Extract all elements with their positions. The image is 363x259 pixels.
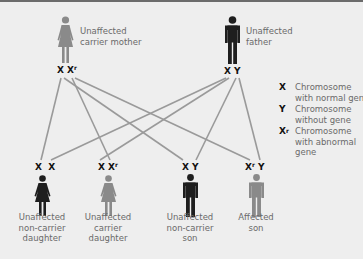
daughter2-chromosomes: X Xr [98,162,118,172]
father-figure [223,16,242,70]
son2-label: Affected son [226,212,286,233]
chromosome-y: Y [234,66,241,76]
line-father-y-to-son2 [239,78,260,160]
male-icon [223,16,242,66]
legend-key-y: Y [279,104,286,115]
chromosome-xr: Xr [108,162,118,172]
father-label: Unaffected father [246,26,293,47]
son1-chromosomes: X Y [182,162,199,172]
mother-label: Unaffected carrier mother [80,26,141,47]
female-icon [33,175,52,217]
line-mother-x-to-daughter1 [41,78,61,160]
mother-chromosomes: X Xr [57,65,77,75]
father-chromosomes: X Y [224,66,241,76]
daughter1-label: Unaffected non-carrier daughter [12,212,72,244]
legend-key-x: X [279,82,286,93]
son2-chromosomes: Xr Y [245,162,265,172]
daughter2-label: Unaffected carrier daughter [78,212,138,244]
daughter1-chromosomes: X X [35,162,55,172]
son1-label: Unaffected non-carrier son [160,212,220,244]
chromosome-xr: Xr [245,162,255,172]
mother-figure [56,16,75,68]
chromosome-xr: Xr [67,65,77,75]
chromosome-x: X [224,66,231,76]
chromosome-x: X [57,65,64,75]
line-mother-xr-to-son2 [75,78,250,160]
legend-key-xr: Xr [279,126,289,137]
female-icon [56,16,75,64]
line-father-y-to-son1 [196,78,236,160]
female-icon [99,175,118,217]
